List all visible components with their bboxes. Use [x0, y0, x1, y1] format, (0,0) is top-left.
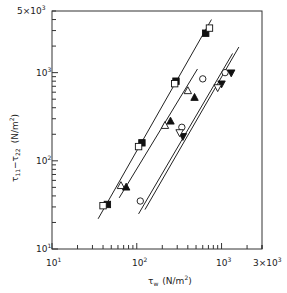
y-axis-ticks — [52, 11, 58, 249]
x-tick-label-3000: 3×103 — [253, 256, 282, 268]
open-circle-marker — [200, 76, 206, 82]
open-square-marker — [135, 143, 141, 149]
open-circle-marker — [137, 198, 143, 204]
y-axis-label: τ11−τ22(N/m2) — [8, 114, 21, 182]
plot-frame — [52, 11, 262, 249]
open-square-marker — [171, 80, 177, 86]
x-tick-label-1000: 103 — [216, 256, 231, 268]
log-log-scatter-chart: 101 102 103 3×103 101 102 103 5×103 τw(N… — [0, 0, 287, 293]
y-tick-label-100: 102 — [36, 154, 51, 166]
y-tick-label-1000: 103 — [36, 66, 51, 78]
open-triangle-marker — [184, 87, 191, 94]
data-points — [100, 25, 235, 209]
filled-triangle-marker — [191, 93, 198, 100]
x-axis-label: τw(N/m2) — [148, 274, 192, 287]
x-tick-label-100: 102 — [132, 256, 147, 268]
x-axis-ticks — [52, 243, 262, 249]
y-tick-label-5000: 5×103 — [17, 4, 46, 16]
y-tick-label-10: 101 — [36, 242, 51, 254]
open-square-marker — [206, 25, 212, 31]
x-tick-label-10: 101 — [46, 256, 61, 268]
open-square-marker — [100, 202, 106, 208]
